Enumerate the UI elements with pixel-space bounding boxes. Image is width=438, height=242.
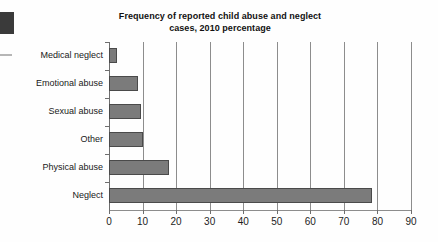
- y-axis-tick: [105, 70, 109, 71]
- category-label: Emotional abuse: [36, 76, 103, 91]
- x-axis-tick-label: 50: [264, 216, 290, 227]
- category-label: Sexual abuse: [48, 104, 103, 119]
- x-axis-tick: [143, 210, 144, 214]
- bar-row: Medical neglect: [109, 42, 411, 70]
- x-axis-tick: [277, 210, 278, 214]
- bar: [109, 132, 143, 147]
- bar: [109, 104, 141, 119]
- x-axis-tick-label: 80: [364, 216, 390, 227]
- bar-row: Physical abuse: [109, 154, 411, 182]
- x-axis-tick: [243, 210, 244, 214]
- y-axis-tick: [105, 154, 109, 155]
- x-axis-tick-label: 30: [197, 216, 223, 227]
- gridline-90: [411, 42, 412, 210]
- plot-area: Medical neglectEmotional abuseSexual abu…: [109, 42, 411, 210]
- chart-title-line-2: cases, 2010 percentage: [169, 23, 271, 33]
- bar-row: Other: [109, 126, 411, 154]
- bar-row: Sexual abuse: [109, 98, 411, 126]
- x-axis-line: [109, 210, 412, 211]
- x-axis-tick: [344, 210, 345, 214]
- bar: [109, 76, 138, 91]
- x-axis-tick-label: 20: [163, 216, 189, 227]
- x-axis-tick-label: 10: [130, 216, 156, 227]
- x-axis-tick-label: 60: [297, 216, 323, 227]
- x-axis-tick: [310, 210, 311, 214]
- y-axis-tick: [105, 42, 109, 43]
- category-label: Other: [80, 132, 103, 147]
- bar-row: Neglect: [109, 182, 411, 210]
- bar-row: Emotional abuse: [109, 70, 411, 98]
- chart-title-line-1: Frequency of reported child abuse and ne…: [119, 11, 321, 21]
- category-label: Medical neglect: [40, 48, 103, 63]
- x-axis-tick: [109, 210, 110, 214]
- bar: [109, 188, 372, 203]
- x-axis-tick: [176, 210, 177, 214]
- x-axis-tick: [210, 210, 211, 214]
- x-axis-tick-label: 40: [230, 216, 256, 227]
- x-axis-tick-label: 70: [331, 216, 357, 227]
- chart-title: Frequency of reported child abuse and ne…: [104, 11, 336, 34]
- y-axis-tick: [105, 182, 109, 183]
- y-axis-tick: [105, 98, 109, 99]
- x-axis-tick-label: 90: [398, 216, 424, 227]
- bar: [109, 160, 169, 175]
- scan-edge-artifact: [0, 12, 14, 34]
- category-label: Physical abuse: [42, 160, 103, 175]
- x-axis-tick: [377, 210, 378, 214]
- x-axis-tick: [411, 210, 412, 214]
- x-axis-tick-label: 0: [96, 216, 122, 227]
- y-axis-tick: [105, 126, 109, 127]
- category-label: Neglect: [72, 188, 103, 203]
- scan-edge-artifact-secondary: [0, 54, 12, 56]
- bar: [109, 48, 117, 63]
- bar-chart-figure: Frequency of reported child abuse and ne…: [0, 0, 438, 242]
